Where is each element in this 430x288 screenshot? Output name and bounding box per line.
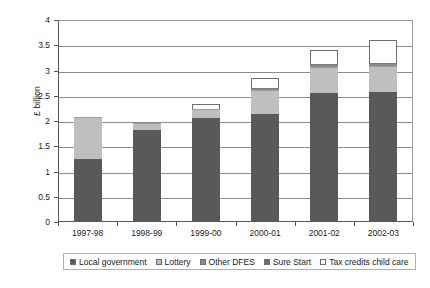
stacked-bar[interactable] xyxy=(74,117,102,222)
legend-label: Sure Start xyxy=(273,257,311,267)
bar-segment[interactable] xyxy=(192,118,220,222)
y-axis-tick-label: 3 xyxy=(45,66,50,76)
y-axis-tick-label: 2 xyxy=(45,116,50,126)
bar-segment[interactable] xyxy=(251,78,279,88)
legend-swatch-icon xyxy=(70,259,76,265)
legend-swatch-icon xyxy=(156,259,162,265)
legend-label: Local government xyxy=(79,257,147,267)
bar-segment[interactable] xyxy=(251,114,279,222)
bar-segment[interactable] xyxy=(310,93,338,222)
stacked-bar[interactable] xyxy=(310,50,338,222)
x-axis-tick-mark xyxy=(295,222,296,226)
x-axis-tick-label: 2001-02 xyxy=(309,228,340,238)
y-axis-tick-label: 1 xyxy=(45,167,50,177)
bar-group[interactable] xyxy=(74,20,102,222)
y-axis-tick-label: 4 xyxy=(45,15,50,25)
x-axis-ticks: 1997-981998-991999-002000-012001-022002-… xyxy=(58,222,413,244)
stacked-bar[interactable] xyxy=(133,123,161,222)
legend-item[interactable]: Lottery xyxy=(156,257,191,267)
bar-group[interactable] xyxy=(251,20,279,222)
bar-series-container xyxy=(58,20,413,222)
y-axis-tick-label: 2.5 xyxy=(38,91,50,101)
bar-chart: £ billion 00.511.522.533.54 1997-981998-… xyxy=(0,0,430,288)
x-axis-tick-mark xyxy=(176,222,177,226)
bar-segment[interactable] xyxy=(74,117,102,158)
y-axis-tick-label: 0.5 xyxy=(38,192,50,202)
legend-item[interactable]: Sure Start xyxy=(264,257,311,267)
bar-segment[interactable] xyxy=(369,66,397,92)
legend-item[interactable]: Other DFES xyxy=(200,257,255,267)
x-axis-tick-mark xyxy=(236,222,237,226)
bar-segment[interactable] xyxy=(133,123,161,130)
stacked-bar[interactable] xyxy=(192,104,220,222)
bar-segment[interactable] xyxy=(310,67,338,93)
legend-label: Tax credits child care xyxy=(329,257,408,267)
legend-label: Other DFES xyxy=(209,257,255,267)
stacked-bar[interactable] xyxy=(369,40,397,222)
bar-segment[interactable] xyxy=(133,130,161,222)
x-axis-tick-mark xyxy=(413,222,414,226)
legend-swatch-icon xyxy=(264,259,270,265)
legend-item[interactable]: Local government xyxy=(70,257,147,267)
x-axis-tick-label: 1999-00 xyxy=(190,228,221,238)
bar-segment[interactable] xyxy=(74,159,102,222)
bar-segment[interactable] xyxy=(369,92,397,222)
legend-swatch-icon xyxy=(320,259,326,265)
x-axis-tick-label: 2002-03 xyxy=(368,228,399,238)
x-axis-tick-mark xyxy=(354,222,355,226)
chart-legend: Local governmentLotteryOther DFESSure St… xyxy=(63,253,416,270)
x-axis-tick-mark xyxy=(117,222,118,226)
bar-group[interactable] xyxy=(192,20,220,222)
legend-swatch-icon xyxy=(200,259,206,265)
bar-segment[interactable] xyxy=(251,90,279,114)
bar-group[interactable] xyxy=(310,20,338,222)
bar-segment[interactable] xyxy=(369,40,397,63)
x-axis-tick-label: 2000-01 xyxy=(249,228,280,238)
y-axis-tick-label: 0 xyxy=(45,217,50,227)
x-axis-tick-label: 1998-99 xyxy=(131,228,162,238)
x-axis-tick-mark xyxy=(58,222,59,226)
bar-group[interactable] xyxy=(133,20,161,222)
bar-segment[interactable] xyxy=(310,50,338,64)
stacked-bar[interactable] xyxy=(251,78,279,222)
y-axis-tick-label: 3.5 xyxy=(38,40,50,50)
y-axis-tick-label: 1.5 xyxy=(38,141,50,151)
bar-segment[interactable] xyxy=(192,109,220,118)
bar-group[interactable] xyxy=(369,20,397,222)
x-axis-tick-label: 1997-98 xyxy=(72,228,103,238)
y-axis-tick-labels: 00.511.522.533.54 xyxy=(0,0,58,288)
legend-item[interactable]: Tax credits child care xyxy=(320,257,408,267)
legend-label: Lottery xyxy=(165,257,191,267)
